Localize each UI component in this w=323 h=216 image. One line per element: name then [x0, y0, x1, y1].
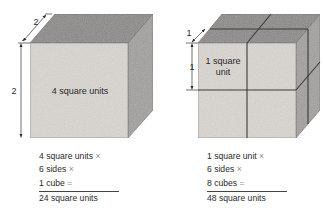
calc-result: 48 square units [207, 191, 287, 205]
calc-line: 8 cubes = [207, 177, 287, 190]
calc-term: 1 square unit [207, 151, 257, 161]
calc-term: 6 sides [207, 164, 234, 174]
large-cube-depth-label: 2 [33, 17, 38, 27]
small-cube-face-label-line1: 1 square [205, 56, 240, 66]
multiply-operator: × [259, 151, 264, 161]
calc-term: 1 cube [39, 178, 65, 188]
equals-operator: = [240, 178, 245, 188]
large-cube-face-label: 4 square units [52, 86, 109, 96]
small-cubes-calculation: 1 square unit × 6 sides × 8 cubes = 48 s… [207, 150, 287, 205]
small-cube-depth-label: 1 [186, 28, 191, 38]
calc-term: 8 cubes [207, 178, 237, 188]
calc-line: 4 square units × [39, 150, 119, 163]
calc-line: 1 square unit × [207, 150, 287, 163]
equals-operator: = [67, 178, 72, 188]
small-cube-height-label: 1 [189, 62, 194, 72]
small-cube-face-label-line2: unit [216, 67, 231, 77]
multiply-operator: × [95, 151, 100, 161]
calc-line: 1 cube = [39, 177, 119, 190]
large-cube-height-label: 2 [11, 86, 16, 96]
calc-line: 6 sides × [207, 163, 287, 176]
multiply-operator: × [69, 164, 74, 174]
calc-term: 6 sides [39, 164, 66, 174]
large-cube-calculation: 4 square units × 6 sides × 1 cube = 24 s… [39, 150, 119, 205]
calc-result: 24 square units [39, 191, 119, 205]
calc-line: 6 sides × [39, 163, 119, 176]
multiply-operator: × [237, 164, 242, 174]
large-cube [30, 14, 153, 138]
calc-term: 4 square units [39, 151, 93, 161]
